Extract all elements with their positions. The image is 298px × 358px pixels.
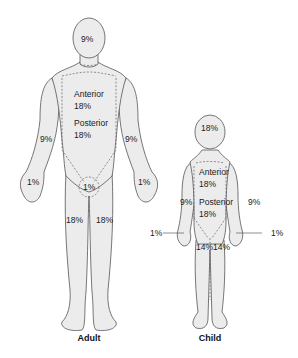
child-left-leg-label: 14% — [196, 243, 213, 252]
adult-right-arm-label: 9% — [125, 135, 137, 144]
child-anterior-value: 18% — [199, 180, 216, 189]
child-figure — [163, 115, 262, 329]
adult-figure — [20, 18, 157, 331]
adult-left-arm-label: 9% — [40, 135, 52, 144]
child-posterior-value: 18% — [199, 210, 216, 219]
adult-left-leg-label: 18% — [66, 216, 83, 225]
adult-posterior-title: Posterior — [74, 119, 108, 128]
adult-anterior-value: 18% — [74, 102, 91, 111]
adult-caption: Adult — [78, 334, 101, 343]
adult-right-hand-label: 1% — [138, 178, 150, 187]
child-posterior-title: Posterior — [199, 198, 233, 207]
child-caption: Child — [199, 334, 222, 343]
child-head-label: 18% — [201, 124, 218, 133]
child-right-arm-label: 9% — [248, 198, 260, 207]
adult-head-label: 9% — [81, 35, 93, 44]
child-left-hand-label: 1% — [150, 229, 162, 238]
child-left-arm-label: 9% — [180, 198, 192, 207]
adult-posterior-value: 18% — [74, 131, 91, 140]
adult-left-hand-label: 1% — [27, 178, 39, 187]
child-anterior-title: Anterior — [199, 168, 229, 177]
child-right-leg-label: 14% — [213, 243, 230, 252]
adult-right-leg-label: 18% — [96, 216, 113, 225]
adult-anterior-title: Anterior — [74, 90, 104, 99]
adult-perineum-label: 1% — [83, 183, 95, 192]
child-right-hand-label: 1% — [271, 229, 283, 238]
rule-of-nines-diagram: 9% Anterior 18% Posterior 18% 9% 9% 1% 1… — [0, 0, 298, 358]
